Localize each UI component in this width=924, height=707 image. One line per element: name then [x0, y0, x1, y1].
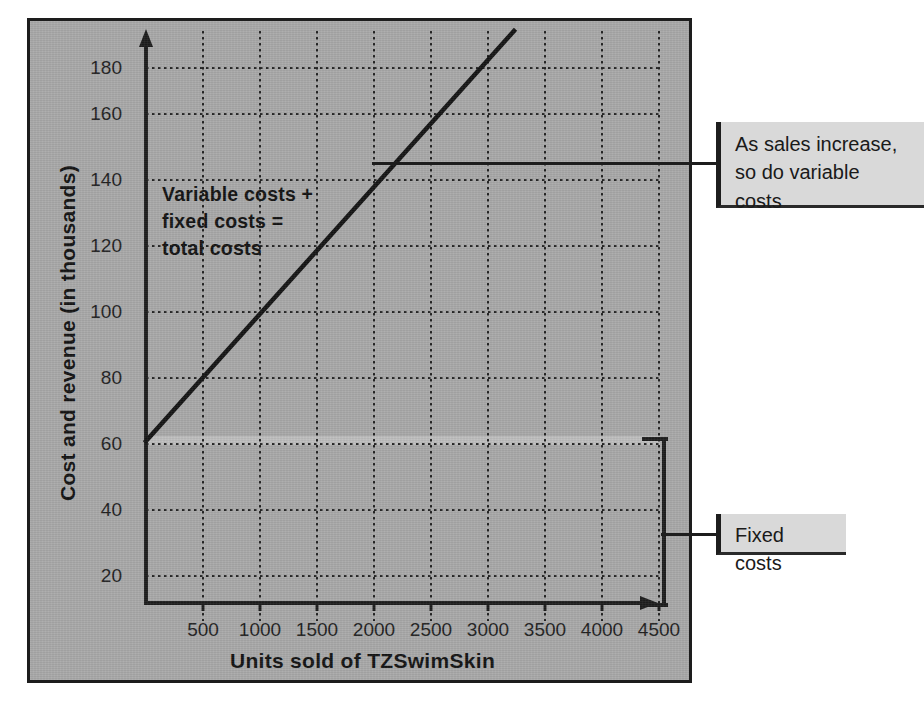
x-tick-1500: 1500: [296, 619, 338, 641]
x-tick-1000: 1000: [239, 619, 281, 641]
x-tick-2500: 2500: [410, 619, 452, 641]
x-tick-3000: 3000: [467, 619, 509, 641]
x-tick-4500: 4500: [638, 619, 680, 641]
x-tick-3500: 3500: [524, 619, 566, 641]
x-axis-title: Units sold of TZSwimSkin: [30, 649, 695, 673]
chart-figure: 180 160 140 120 100 80 60 40 20 500 1000…: [0, 0, 924, 707]
y-axis-title: Cost and revenue (in thousands): [56, 73, 80, 593]
fixed-costs-callout: Fixed costs: [716, 514, 846, 555]
annotation-line-2: fixed costs =: [162, 208, 382, 235]
annotation-line-1: Variable costs +: [162, 181, 382, 208]
chart-panel: 180 160 140 120 100 80 60 40 20 500 1000…: [27, 18, 692, 683]
x-tick-4000: 4000: [581, 619, 623, 641]
x-tick-2000: 2000: [353, 619, 395, 641]
fixed-callout-line-1: Fixed costs: [735, 521, 836, 578]
variable-callout-line-3: costs: [735, 187, 914, 215]
variable-costs-leader-line: [372, 162, 716, 165]
variable-callout-line-2: so do variable: [735, 158, 914, 186]
variable-callout-line-1: As sales increase,: [735, 130, 914, 158]
fixed-costs-leader-line: [661, 533, 717, 536]
x-axis-tick-labels: 500 1000 1500 2000 2500 3000 3500 4000 4…: [30, 21, 695, 686]
total-costs-annotation: Variable costs + fixed costs = total cos…: [162, 181, 382, 262]
annotation-line-3: total costs: [162, 235, 382, 262]
x-tick-500: 500: [187, 619, 219, 641]
variable-costs-callout: As sales increase, so do variable costs: [716, 122, 924, 208]
